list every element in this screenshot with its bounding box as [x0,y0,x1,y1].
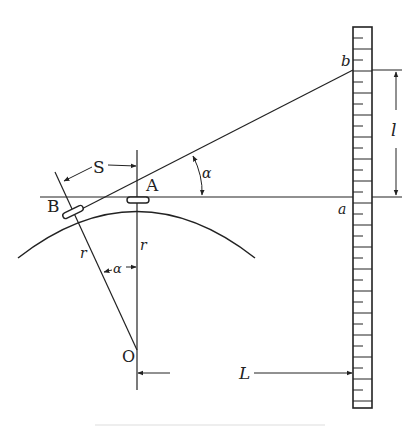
mirror-A [127,197,149,203]
radius-line-OB [55,172,137,350]
label-alpha-center: α [113,261,122,276]
label-S: S [93,157,105,177]
label-B: B [47,196,60,216]
caption-faint [95,424,325,426]
s-dimension-left [64,167,92,181]
label-l: l [391,120,396,140]
ray-line-Bb [66,70,353,217]
label-L: L [238,363,250,383]
label-alpha: α [202,165,212,181]
angle-alpha-arc [193,156,202,195]
label-b: b [341,52,351,70]
label-r-left: r [80,245,88,261]
label-O: O [122,347,135,366]
label-a: a [338,201,346,217]
mirror-B [62,204,84,219]
label-A: A [145,175,159,195]
s-dimension-right [108,165,136,166]
angle-center-arrow-left [104,270,112,272]
measuring-scale [353,27,372,408]
label-r-right: r [140,237,148,253]
optical-lever-diagram: S α α A B O r r b a L l [0,0,415,427]
